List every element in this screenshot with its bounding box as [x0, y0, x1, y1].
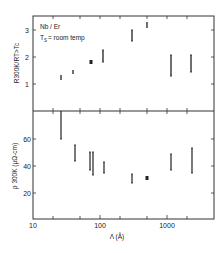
xtick-10: 10	[29, 222, 37, 229]
bottom-y-axis-label: ρ 300K (μΩ-cm)	[11, 143, 19, 189]
top-panel-data	[61, 22, 191, 80]
annotation-material: Nb / Er	[40, 23, 61, 30]
bottom-ytick-20: 20	[23, 190, 31, 197]
top-ytick-3: 3	[25, 27, 29, 34]
bottom-y-ticks	[33, 139, 214, 193]
figure: 3 2 1 60 40 20 10 100 1000 Λ (Å) R300K/R…	[0, 0, 224, 253]
top-ytick-1: 1	[25, 81, 29, 88]
x-ticks	[53, 16, 187, 219]
bottom-ytick-60: 60	[23, 136, 31, 143]
bottom-panel-caps	[60, 139, 193, 183]
top-ytick-2: 2	[25, 54, 29, 61]
x-axis-label: Λ (Å)	[110, 232, 124, 241]
annotation-temperature: TS= room temp	[40, 34, 85, 43]
bottom-ytick-40: 40	[23, 163, 31, 170]
bottom-panel-data	[61, 111, 192, 183]
xtick-1000: 1000	[159, 222, 175, 229]
xtick-100: 100	[94, 222, 106, 229]
top-y-axis-label: R300K/RT>Tc	[13, 42, 20, 83]
plot-frame	[33, 16, 214, 219]
top-panel-caps	[102, 30, 192, 76]
